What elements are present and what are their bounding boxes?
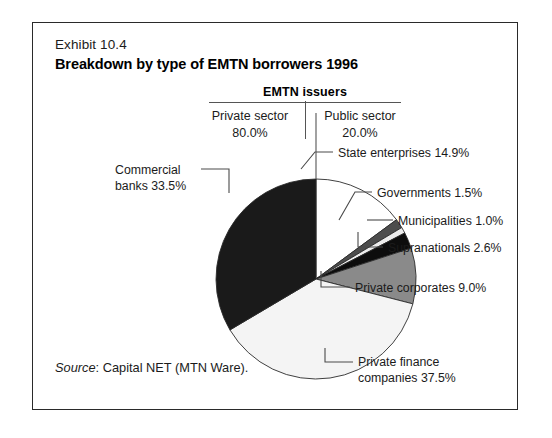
slice-label-supranationals: Supranationals 2.6% (388, 241, 501, 257)
slice-label-state-enterprises: State enterprises 14.9% (338, 146, 469, 162)
source-note: Source: Capital NET (MTN Ware). (55, 360, 248, 375)
exhibit-frame: Exhibit 10.4 Breakdown by type of EMTN b… (32, 22, 518, 410)
commercial-banks-line2: banks 33.5% (115, 179, 186, 195)
commercial-banks-line1: Commercial (115, 163, 186, 179)
slice-label-private-finance: Private finance companies 37.5% (358, 355, 456, 386)
private-finance-line1: Private finance (358, 355, 456, 371)
leader-state-enterprises (301, 152, 333, 169)
pie-slices (216, 179, 416, 379)
slice-label-private-corporates: Private corporates 9.0% (355, 281, 486, 297)
leader-commercial-banks (201, 169, 229, 193)
private-finance-line2: companies 37.5% (358, 371, 456, 387)
slice-label-commercial-banks: Commercial banks 33.5% (115, 163, 186, 194)
slice-label-governments: Governments 1.5% (377, 186, 482, 202)
source-word: Source (55, 360, 96, 375)
source-text: : Capital NET (MTN Ware). (96, 360, 249, 375)
slice-label-municipalities: Municipalities 1.0% (398, 214, 503, 230)
